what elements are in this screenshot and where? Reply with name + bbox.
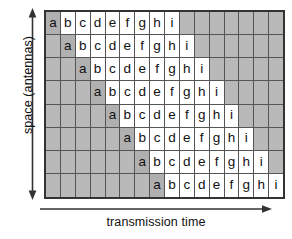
grid-cell-empty [180,12,195,35]
grid-cell-label: d [198,178,206,192]
grid-cell-empty [210,12,225,35]
grid-cell-empty [76,128,91,151]
grid-row: abcdefghi [46,35,283,58]
grid-cell-symbol: c [135,105,150,128]
grid-cell-label: a [109,108,117,122]
grid-cell-symbol: f [180,105,195,128]
grid-cell-label: e [138,62,146,76]
grid-cell-symbol: e [210,174,225,197]
grid-cell-symbol: b [61,12,76,35]
grid-cell-symbol: f [225,174,240,197]
grid-cell-symbol: g [135,12,150,35]
grid-cell-label: c [124,85,131,99]
grid-cell-symbol: g [165,58,180,81]
grid-cell-label: a [79,62,87,76]
grid-cell-empty [210,35,225,58]
grid-row: abcdefghi [46,58,283,81]
grid-cell-label: e [168,108,176,122]
grid-cell-empty [76,81,91,104]
grid-cell-empty [46,35,61,58]
grid-cell-empty [225,12,240,35]
grid-cell-empty [254,35,269,58]
y-axis: space (antennas) [0,8,44,200]
grid-cell-symbol: f [195,128,210,151]
grid-cell-symbol: a [150,174,165,197]
grid-cell-label: h [183,62,191,76]
grid-cell-label: c [139,108,146,122]
grid-cell-symbol: h [165,35,180,58]
grid-cell-label: f [185,108,189,122]
grid-cell-symbol: h [150,12,165,35]
grid-cell-empty [46,105,61,128]
grid-cell-symbol: a [91,81,106,104]
grid-cell-label: a [64,39,72,53]
grid-cell-symbol: b [120,105,135,128]
grid-cell-symbol: d [135,81,150,104]
grid-cell-label: h [213,108,221,122]
grid-cell-symbol: f [210,151,225,174]
grid-cell-empty [254,12,269,35]
grid-cell-symbol: d [180,151,195,174]
grid-cell-symbol: e [120,35,135,58]
grid-cell-empty [269,35,283,58]
grid-cell-label: b [138,131,146,145]
grid-cell-label: f [215,155,219,169]
grid-cell-label: h [168,39,176,53]
grid-cell-symbol: i [269,174,283,197]
grid-cell-empty [61,151,76,174]
grid-cell-symbol: i [195,58,210,81]
grid-cell-empty [46,174,61,197]
grid-cell-label: a [153,178,161,192]
grid-cell-label: g [243,178,251,192]
grid-cell-symbol: g [225,151,240,174]
grid-cell-label: g [198,108,206,122]
x-axis: transmission time [40,203,276,239]
grid-cell-empty [239,58,254,81]
grid-cell-label: c [79,16,86,30]
grid-row: abcdefghi [46,151,283,174]
grid-cell-symbol: c [120,81,135,104]
diagram-figure: space (antennas) abcdefghiabcdefghiabcde… [0,0,292,239]
grid-cell-symbol: c [76,12,91,35]
grid-cell-label: i [275,178,278,192]
grid-cell-symbol: d [120,58,135,81]
grid-cell-empty [91,151,106,174]
grid-cell-label: d [168,131,176,145]
grid-cell-symbol: e [195,151,210,174]
grid-cell-symbol: d [106,35,121,58]
grid-cell-label: a [49,16,57,30]
grid-cell-label: h [257,178,265,192]
grid-cell-symbol: b [150,151,165,174]
grid-cell-empty [254,128,269,151]
grid-cell-label: i [170,16,173,30]
grid-cell-label: i [215,85,218,99]
grid-cell-label: e [153,85,161,99]
grid-cell-empty [239,12,254,35]
grid-cell-symbol: a [106,105,121,128]
grid-cell-empty [269,151,283,174]
grid-cell-label: a [138,155,146,169]
grid-cell-symbol: a [135,151,150,174]
grid-cell-symbol: i [210,81,225,104]
grid-cell-empty [135,174,150,197]
grid-cell-symbol: f [150,58,165,81]
grid-cell-label: i [245,131,248,145]
grid-cell-symbol: f [165,81,180,104]
grid-cell-label: c [109,62,116,76]
grid-cell-label: b [124,108,132,122]
grid-cell-label: e [124,39,132,53]
grid-cell-symbol: a [61,35,76,58]
grid-cell-symbol: c [165,151,180,174]
grid-cell-label: g [213,131,221,145]
grid-cell-empty [46,151,61,174]
grid-cell-symbol: h [210,105,225,128]
grid-cell-symbol: h [239,151,254,174]
grid-cell-empty [269,12,283,35]
grid-cell-symbol: i [180,35,195,58]
grid-cell-symbol: a [46,12,61,35]
grid-cell-empty [91,128,106,151]
grid-row: abcdefghi [46,81,283,104]
grid-cell-empty [61,81,76,104]
grid-cell-label: f [200,131,204,145]
grid-cell-empty [254,105,269,128]
